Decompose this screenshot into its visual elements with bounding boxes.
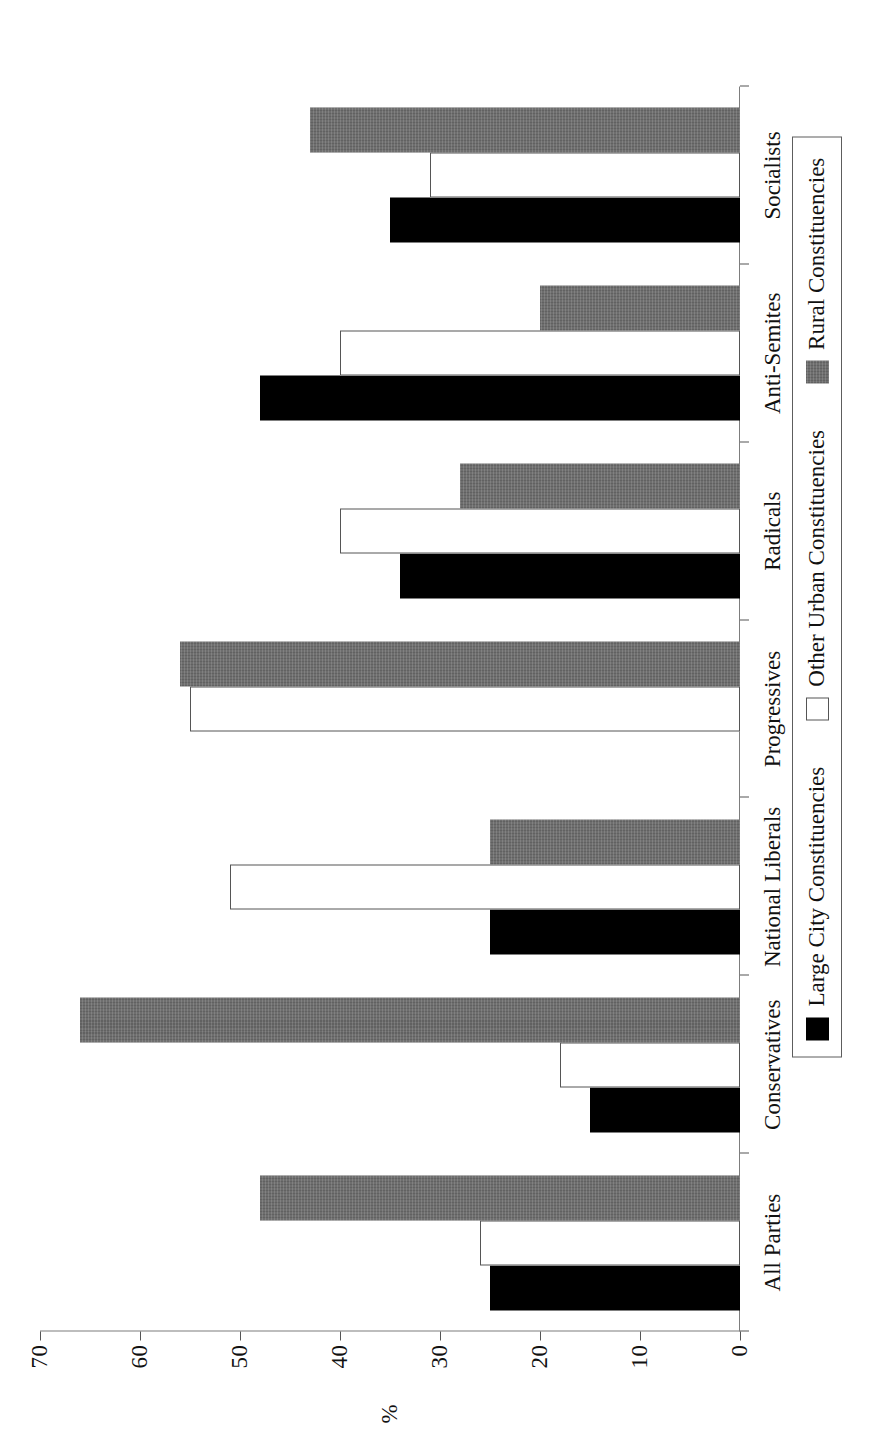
bar-group (40, 107, 740, 242)
legend-label: Large City Constituencies (804, 766, 830, 1006)
category-axis-tick (740, 1330, 749, 1331)
chart-stage: % 010203040506070All PartiesConservative… (0, 0, 872, 1449)
value-axis-tick (540, 1331, 541, 1340)
category-axis-tick (740, 85, 749, 86)
bar (540, 285, 740, 330)
value-axis-tick-label: 0 (727, 1344, 753, 1356)
value-axis-tick (740, 1331, 741, 1340)
bar-group (40, 463, 740, 598)
category-axis-tick (740, 974, 749, 975)
bar (490, 1265, 740, 1310)
chart-legend: Large City Constituencies Other Urban Co… (792, 136, 842, 1057)
bar (490, 909, 740, 954)
category-label: Progressives (760, 650, 786, 766)
value-axis (40, 1330, 740, 1331)
category-axis-tick (740, 263, 749, 264)
bar (260, 375, 740, 420)
category-axis-tick (740, 1152, 749, 1153)
value-axis-tick (40, 1331, 41, 1340)
bar-group (40, 285, 740, 420)
category-axis-tick (740, 619, 749, 620)
plot-area: % 010203040506070All PartiesConservative… (40, 86, 740, 1331)
category-axis-tick (740, 796, 749, 797)
category-label: Radicals (760, 491, 786, 570)
legend-item-large-city[interactable]: Large City Constituencies (804, 766, 830, 1040)
bar (260, 1175, 740, 1220)
value-axis-tick-label: 30 (427, 1344, 453, 1368)
bar (490, 819, 740, 864)
bar (460, 463, 740, 508)
bar (340, 508, 740, 553)
black-square-icon (806, 1017, 829, 1040)
bar (390, 197, 740, 242)
value-axis-tick-label: 20 (527, 1344, 553, 1368)
bar (310, 107, 740, 152)
bar (340, 330, 740, 375)
bar-chart-figure: % 010203040506070All PartiesConservative… (0, 0, 872, 1449)
value-axis-tick (440, 1331, 441, 1340)
category-label: Conservatives (760, 999, 786, 1129)
value-axis-tick-label: 40 (327, 1344, 353, 1368)
category-label: Socialists (760, 131, 786, 219)
bar (400, 553, 740, 598)
bar-group (40, 641, 740, 776)
value-axis-tick-label: 60 (127, 1344, 153, 1368)
bar-group (40, 1175, 740, 1310)
gray-square-icon (806, 360, 829, 383)
bar (230, 864, 740, 909)
category-label: All Parties (760, 1193, 786, 1291)
value-axis-tick-label: 50 (227, 1344, 253, 1368)
legend-item-other-urban[interactable]: Other Urban Constituencies (804, 429, 830, 720)
bar (430, 152, 740, 197)
value-axis-label: % (377, 1404, 403, 1423)
value-axis-tick (240, 1331, 241, 1340)
category-axis-tick (740, 441, 749, 442)
bar-group (40, 819, 740, 954)
legend-label: Rural Constituencies (804, 157, 830, 349)
category-label: Anti-Semites (760, 292, 786, 413)
value-axis-tick (340, 1331, 341, 1340)
bar (180, 641, 740, 686)
legend-label: Other Urban Constituencies (804, 429, 830, 686)
legend-item-rural[interactable]: Rural Constituencies (804, 157, 830, 383)
bar (190, 686, 740, 731)
value-axis-tick (140, 1331, 141, 1340)
value-axis-tick-label: 10 (627, 1344, 653, 1368)
bar (560, 1042, 740, 1087)
bar (590, 1087, 740, 1132)
value-axis-tick (640, 1331, 641, 1340)
white-square-icon (806, 697, 829, 720)
bar (80, 997, 740, 1042)
bar-group (40, 997, 740, 1132)
bar (480, 1220, 740, 1265)
value-axis-tick-label: 70 (27, 1344, 53, 1368)
category-label: National Liberals (760, 806, 786, 966)
